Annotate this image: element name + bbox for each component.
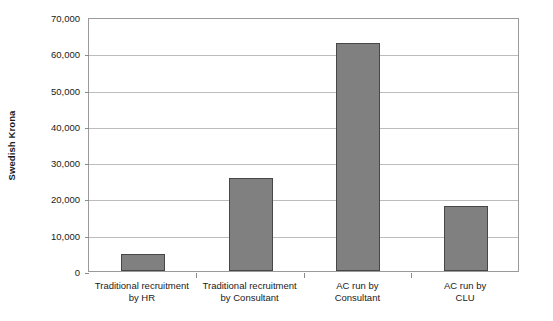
x-axis-category-label-line: Traditional recruitment bbox=[196, 280, 304, 292]
x-axis-category-label-line: Consultant bbox=[304, 292, 412, 304]
x-axis-category-label-line: AC run by bbox=[304, 280, 412, 292]
y-axis-tick-labels: 010,00020,00030,00040,00050,00060,00070,… bbox=[24, 0, 86, 290]
x-axis-category-label-line: by HR bbox=[88, 292, 196, 304]
bar-slot bbox=[305, 19, 413, 271]
y-axis-title-label: Swedish Krona bbox=[7, 110, 18, 180]
bar[interactable] bbox=[444, 206, 488, 271]
bar-slot bbox=[197, 19, 305, 271]
x-axis-tickmark bbox=[411, 273, 412, 278]
x-axis-tickmark bbox=[196, 273, 197, 278]
y-axis-tick-label: 60,000 bbox=[51, 49, 80, 60]
plot-area bbox=[88, 18, 519, 272]
x-axis-tick-labels: Traditional recruitmentby HRTraditional … bbox=[88, 273, 519, 319]
x-axis-category-label-line: Traditional recruitment bbox=[88, 280, 196, 292]
bars-layer bbox=[89, 19, 518, 271]
x-axis-category-label: Traditional recruitmentby HR bbox=[88, 280, 196, 304]
bar[interactable] bbox=[121, 254, 165, 271]
x-axis-category-label: AC run byConsultant bbox=[304, 280, 412, 304]
y-axis-tick-label: 70,000 bbox=[51, 13, 80, 24]
y-axis-tick-label: 40,000 bbox=[51, 121, 80, 132]
x-axis-category-label-line: AC run by bbox=[411, 280, 519, 292]
x-axis-tickmark bbox=[304, 273, 305, 278]
x-axis-category-label-line: CLU bbox=[411, 292, 519, 304]
y-axis-tick-label: 10,000 bbox=[51, 230, 80, 241]
bar[interactable] bbox=[336, 43, 380, 271]
bar-slot bbox=[412, 19, 520, 271]
bar[interactable] bbox=[229, 178, 273, 271]
y-axis-tick-label: 30,000 bbox=[51, 158, 80, 169]
bar-chart: Swedish Krona 010,00020,00030,00040,0005… bbox=[0, 0, 553, 321]
y-axis-tick-label: 50,000 bbox=[51, 85, 80, 96]
x-axis-category-label-line: by Consultant bbox=[196, 292, 304, 304]
x-axis-category-label: AC run byCLU bbox=[411, 280, 519, 304]
y-axis-tick-label: 20,000 bbox=[51, 194, 80, 205]
x-axis-category-label: Traditional recruitmentby Consultant bbox=[196, 280, 304, 304]
bar-slot bbox=[89, 19, 197, 271]
y-axis-tick-label: 0 bbox=[75, 267, 80, 278]
y-axis-title: Swedish Krona bbox=[0, 0, 24, 290]
